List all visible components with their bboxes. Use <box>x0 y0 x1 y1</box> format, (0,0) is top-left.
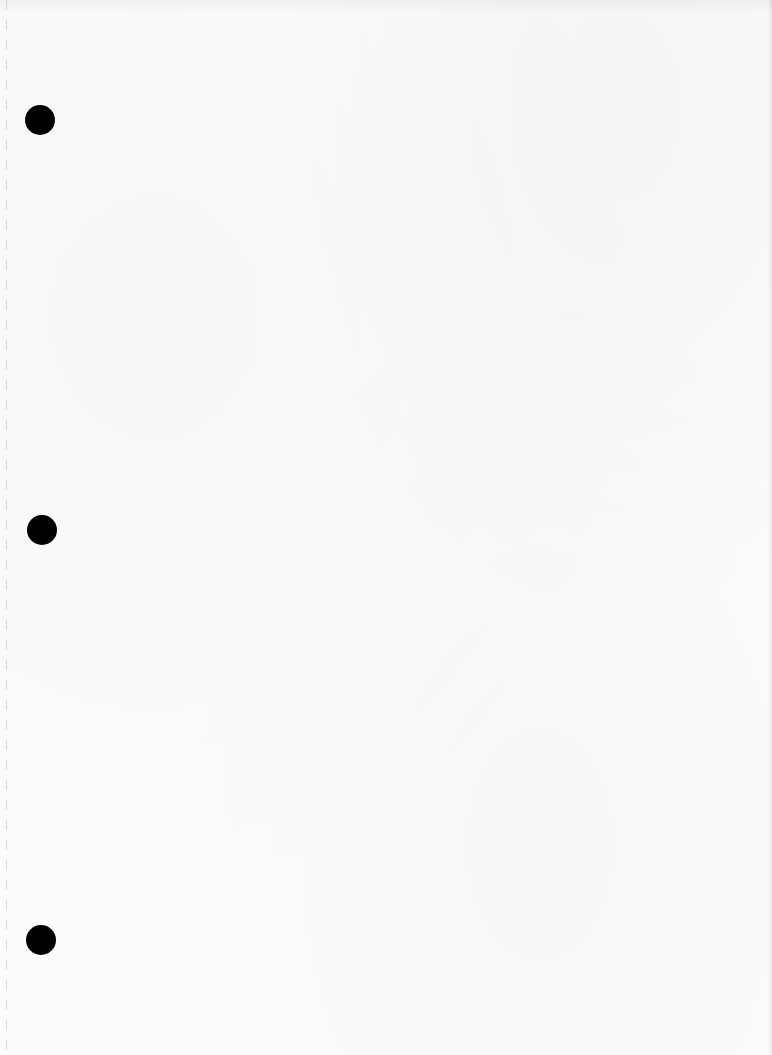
page-edge-line <box>6 0 7 1055</box>
punch-hole-top <box>25 105 55 135</box>
punch-hole-bottom <box>26 925 56 955</box>
blank-page <box>0 0 772 1055</box>
scan-shadow-right <box>768 0 772 1055</box>
punch-hole-middle <box>27 515 57 545</box>
scan-shadow-top <box>0 0 772 14</box>
